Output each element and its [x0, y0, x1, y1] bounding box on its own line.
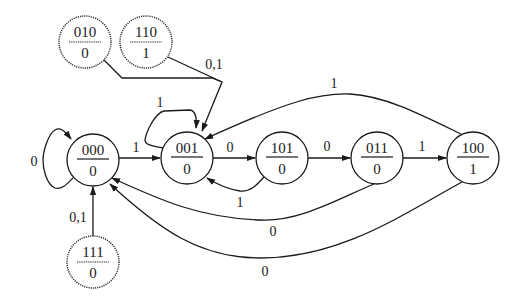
label-011-to-100: 1 [419, 139, 426, 154]
label-000-self: 0 [31, 154, 38, 169]
edge-100-to-000 [110, 182, 462, 258]
label-100-to-000: 0 [262, 264, 269, 279]
state-code: 000 [82, 142, 105, 158]
label-001-self: 1 [157, 95, 164, 110]
state-110-unreachable: 110 1 [120, 16, 172, 68]
label-101-to-001: 1 [237, 195, 244, 210]
state-code: 010 [74, 24, 97, 40]
state-code: 101 [271, 140, 294, 156]
state-101: 101 0 [256, 132, 308, 184]
label-unused-to-001: 0,1 [205, 57, 223, 72]
label-011-to-000: 0 [270, 224, 277, 239]
state-001: 001 0 [161, 132, 213, 184]
state-output: 0 [373, 161, 381, 177]
state-diagram: 0 1 1 0 1 0 1 1 0 0 0,1 0,1 000 0 001 0 … [0, 0, 526, 306]
state-code: 111 [82, 244, 103, 260]
state-code: 001 [176, 140, 199, 156]
edge-101-to-001 [207, 177, 264, 191]
edge-100-to-001 [205, 94, 461, 139]
state-output: 0 [89, 163, 97, 179]
label-100-to-001: 1 [331, 76, 338, 91]
state-010-unreachable: 010 0 [59, 16, 111, 68]
label-101-to-011: 0 [324, 139, 331, 154]
state-output: 1 [142, 45, 150, 61]
state-output: 0 [183, 161, 191, 177]
state-output: 1 [469, 161, 477, 177]
state-output: 0 [81, 45, 89, 61]
state-output: 0 [278, 161, 286, 177]
state-000: 000 0 [67, 134, 119, 186]
state-code: 110 [135, 24, 157, 40]
state-code: 100 [462, 140, 485, 156]
label-001-to-101: 0 [227, 140, 234, 155]
label-000-to-001: 1 [133, 140, 140, 155]
state-code: 011 [366, 140, 388, 156]
state-100: 100 1 [447, 132, 499, 184]
label-111-to-000: 0,1 [69, 210, 87, 225]
state-111-unreachable: 111 0 [67, 236, 119, 288]
state-output: 0 [89, 265, 97, 281]
state-011: 011 0 [351, 132, 403, 184]
